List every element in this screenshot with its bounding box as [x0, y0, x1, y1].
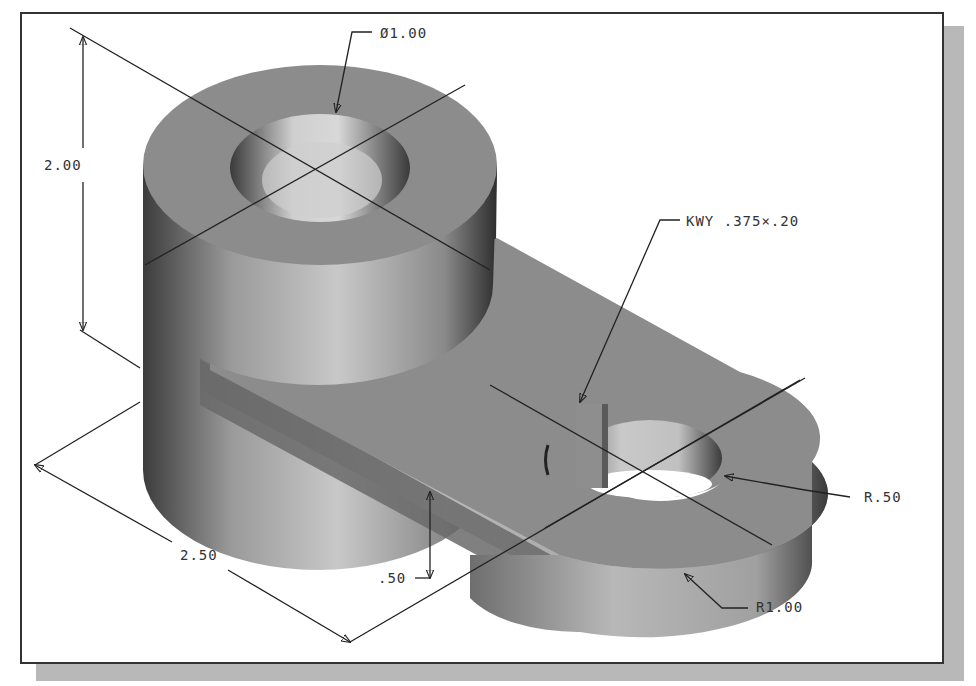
main-boss-top [143, 65, 497, 385]
part-drawing: Ø1.00 2.00 KWY .375×.20 R.50 R1.00 2.50 … [0, 0, 976, 686]
thickness-label: .50 [378, 570, 406, 586]
large-radius-label: R1.00 [756, 599, 803, 615]
height-label: 2.00 [44, 157, 82, 173]
length-label: 2.50 [180, 547, 218, 563]
diameter-label: Ø1.00 [380, 25, 427, 41]
small-radius-label: R.50 [864, 489, 902, 505]
keyway-label: KWY .375×.20 [686, 213, 799, 229]
